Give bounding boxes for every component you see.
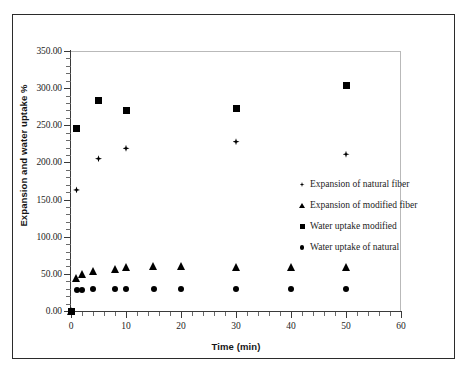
x-tick-minor	[324, 312, 325, 316]
y-tick-minor	[66, 133, 71, 134]
figure-container: 0.0050.00100.00150.00200.00250.00300.003…	[0, 0, 469, 389]
x-tick-minor	[258, 312, 259, 316]
y-tick-minor	[66, 192, 71, 193]
x-tick-minor	[93, 312, 94, 316]
y-axis-tick-labels: 0.0050.00100.00150.00200.00250.00300.003…	[6, 0, 62, 389]
y-tick-minor	[66, 252, 71, 253]
x-tick-minor	[192, 312, 193, 316]
x-tick-major	[236, 312, 237, 318]
y-tick-minor	[66, 66, 71, 67]
y-tick-major	[64, 162, 71, 163]
y-tick-label: 350.00	[10, 46, 62, 56]
y-tick-minor	[66, 140, 71, 141]
x-tick-minor	[390, 312, 391, 316]
y-tick-minor	[66, 170, 71, 171]
data-point-triangle	[111, 265, 119, 273]
y-tick-minor	[66, 214, 71, 215]
triangle-marker-icon	[296, 203, 308, 208]
legend-item-label: Water uptake modified	[308, 221, 397, 232]
data-point-triangle	[122, 263, 130, 271]
x-tick-label: 40	[276, 321, 306, 332]
y-tick-minor	[66, 266, 71, 267]
y-tick-minor	[66, 118, 71, 119]
x-tick-label: 50	[331, 321, 361, 332]
diamond-marker-icon	[296, 182, 308, 187]
y-axis-line	[70, 50, 71, 312]
y-tick-major	[64, 200, 71, 201]
legend-item-label: Expansion of modified fiber	[308, 200, 417, 211]
y-tick-minor	[66, 177, 71, 178]
x-tick-major	[126, 312, 127, 318]
y-tick-minor	[66, 289, 71, 290]
y-tick-minor	[66, 81, 71, 82]
y-axis-title: Expansion and water uptake %	[18, 56, 29, 256]
y-tick-minor	[66, 185, 71, 186]
x-tick-minor	[269, 312, 270, 316]
y-tick-major	[64, 125, 71, 126]
data-point-square	[233, 105, 240, 112]
x-tick-minor	[203, 312, 204, 316]
y-tick-minor	[66, 103, 71, 104]
x-tick-minor	[170, 312, 171, 316]
y-tick-label: 50.00	[10, 269, 62, 279]
x-tick-label: 0	[56, 321, 86, 332]
x-tick-minor	[368, 312, 369, 316]
y-tick-minor	[66, 229, 71, 230]
x-tick-minor	[82, 312, 83, 316]
legend-item-label: Water uptake of natural	[308, 242, 399, 253]
x-tick-minor	[313, 312, 314, 316]
x-tick-minor	[379, 312, 380, 316]
y-tick-minor	[66, 148, 71, 149]
x-tick-major	[401, 312, 402, 318]
y-tick-major	[64, 237, 71, 238]
data-point-triangle	[232, 263, 240, 271]
data-point-square	[68, 308, 75, 315]
x-tick-minor	[335, 312, 336, 316]
y-tick-minor	[66, 296, 71, 297]
x-tick-minor	[357, 312, 358, 316]
x-tick-minor	[302, 312, 303, 316]
chart-legend: Expansion of natural fiberExpansion of m…	[296, 174, 446, 258]
x-tick-major	[346, 312, 347, 318]
y-tick-minor	[66, 96, 71, 97]
data-point-triangle	[89, 267, 97, 275]
square-marker-icon	[296, 224, 308, 230]
x-tick-minor	[104, 312, 105, 316]
y-tick-major	[64, 274, 71, 275]
y-tick-minor	[66, 58, 71, 59]
y-tick-minor	[66, 259, 71, 260]
x-tick-minor	[225, 312, 226, 316]
y-tick-major	[64, 51, 71, 52]
legend-item-0[interactable]: Expansion of natural fiber	[296, 174, 446, 195]
y-tick-minor	[66, 281, 71, 282]
data-point-square	[73, 125, 80, 132]
x-tick-major	[291, 312, 292, 318]
legend-item-1[interactable]: Expansion of modified fiber	[296, 195, 446, 216]
y-tick-minor	[66, 110, 71, 111]
x-tick-minor	[148, 312, 149, 316]
y-tick-label: 0.00	[10, 306, 62, 316]
data-point-triangle	[149, 262, 157, 270]
x-tick-minor	[115, 312, 116, 316]
y-tick-minor	[66, 222, 71, 223]
x-axis-title: Time (min)	[71, 341, 401, 352]
x-tick-label: 60	[386, 321, 416, 332]
data-point-triangle	[342, 263, 350, 271]
x-tick-minor	[280, 312, 281, 316]
data-point-triangle	[78, 270, 86, 278]
legend-item-3[interactable]: Water uptake of natural	[296, 237, 446, 258]
y-tick-minor	[66, 207, 71, 208]
data-point-square	[95, 97, 102, 104]
data-point-square	[343, 82, 350, 89]
circle-marker-icon	[296, 245, 308, 250]
y-tick-minor	[66, 304, 71, 305]
x-tick-minor	[137, 312, 138, 316]
x-tick-label: 10	[111, 321, 141, 332]
legend-item-label: Expansion of natural fiber	[308, 179, 409, 190]
data-point-triangle	[287, 263, 295, 271]
x-tick-minor	[214, 312, 215, 316]
x-tick-label: 20	[166, 321, 196, 332]
legend-item-2[interactable]: Water uptake modified	[296, 216, 446, 237]
y-tick-major	[64, 88, 71, 89]
y-tick-minor	[66, 155, 71, 156]
